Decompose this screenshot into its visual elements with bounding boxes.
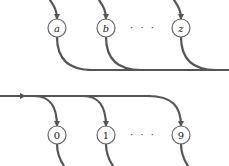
- node-1: 1: [97, 126, 115, 144]
- svg-text:0: 0: [54, 130, 60, 141]
- wire-out-b: [106, 37, 141, 70]
- wire-out-a: [57, 37, 92, 70]
- svg-text:1: 1: [103, 130, 109, 141]
- bottom-ellipsis: · · ·: [130, 129, 156, 140]
- node-z: z: [172, 19, 190, 37]
- wire-into-z: [174, 0, 181, 19]
- wire-out-1: [106, 144, 113, 166]
- svg-text:z: z: [177, 23, 184, 34]
- wire-out-9: [181, 144, 188, 166]
- node-a: a: [48, 19, 66, 37]
- bus-arrow-icon: [20, 93, 26, 99]
- railroad-diagram: a b · · · z 0 1 · · · 9: [0, 0, 229, 166]
- top-ellipsis: · · ·: [130, 22, 156, 33]
- node-0: 0: [48, 126, 66, 144]
- svg-text:a: a: [54, 23, 60, 34]
- node-b: b: [97, 19, 115, 37]
- wire-into-9: [148, 96, 181, 126]
- wire-into-0: [34, 96, 57, 126]
- svg-text:b: b: [103, 23, 109, 34]
- node-9: 9: [172, 126, 190, 144]
- wire-out-0: [57, 144, 64, 166]
- wire-into-a: [50, 0, 57, 19]
- wire-out-z: [181, 37, 216, 70]
- wire-into-1: [83, 96, 106, 126]
- svg-text:9: 9: [178, 130, 184, 141]
- wire-into-b: [99, 0, 106, 19]
